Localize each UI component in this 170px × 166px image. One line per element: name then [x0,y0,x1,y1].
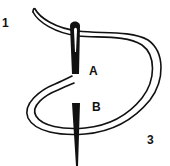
step-label-3: 3 [147,134,154,146]
stitch-drawing [0,0,170,166]
point-label-a: A [89,65,98,77]
stitch-diagram: 1 A B 3 [0,0,170,166]
needle-upper [70,22,80,75]
step-label-1: 1 [2,17,9,29]
point-label-b: B [92,101,101,113]
